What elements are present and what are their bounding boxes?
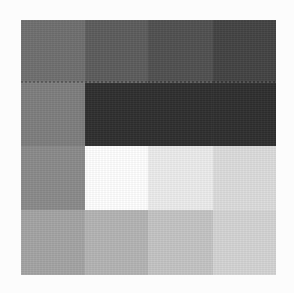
swatch-r2-c4 <box>213 83 276 146</box>
image-canvas <box>0 0 294 293</box>
swatch-r2-c1 <box>21 83 85 146</box>
swatch-r2-c2 <box>85 83 148 146</box>
swatch-r4-c1 <box>21 210 85 275</box>
swatch-r1-c4 <box>213 20 276 83</box>
swatch-r3-c1 <box>21 146 85 210</box>
swatch-r4-c4 <box>213 210 276 275</box>
swatch-r3-c3 <box>148 146 213 210</box>
swatch-r3-c2 <box>85 146 148 210</box>
swatch-r1-c3 <box>148 20 213 83</box>
swatch-r4-c2 <box>85 210 148 275</box>
swatch-r1-c1 <box>21 20 85 83</box>
grayscale-swatch-grid <box>21 20 276 275</box>
swatch-r2-c3 <box>148 83 213 146</box>
swatch-r1-c2 <box>85 20 148 83</box>
swatch-r4-c3 <box>148 210 213 275</box>
swatch-r3-c4 <box>213 146 276 210</box>
